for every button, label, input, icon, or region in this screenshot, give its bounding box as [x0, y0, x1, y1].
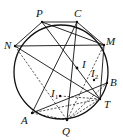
segment-A-T [32, 99, 100, 113]
label-N: N [3, 39, 12, 51]
segment-A-B [32, 83, 107, 113]
point-B-marker [106, 82, 108, 84]
point-I-marker [76, 67, 79, 70]
segment-C-Q [67, 22, 77, 120]
label-I1: I1 [50, 87, 59, 101]
point-labels: PCNMBTQAII1I2 [3, 7, 117, 137]
label-C: C [74, 7, 82, 19]
segment-C-M [77, 22, 104, 45]
label-B: B [110, 76, 117, 88]
label-M: M [105, 35, 116, 47]
dashed-segments [15, 45, 107, 120]
label-T: T [104, 98, 111, 110]
segment-Q-M [67, 45, 104, 120]
geometry-figure: PCNMBTQAII1I2 [0, 0, 123, 140]
point-T-marker [99, 98, 101, 100]
segment-I1-T [60, 96, 100, 99]
label-Q: Q [62, 125, 70, 137]
point-A-marker [31, 112, 33, 114]
segment-N-M [15, 45, 104, 46]
point-I1-marker [59, 95, 61, 97]
label-P: P [35, 7, 43, 19]
point-M-marker [103, 44, 105, 46]
point-C-marker [76, 21, 78, 23]
label-A: A [20, 114, 28, 126]
point-N-marker [14, 45, 16, 47]
point-Q-marker [66, 119, 68, 121]
point-P-marker [41, 21, 43, 23]
segment-P-N [15, 22, 42, 46]
label-I2: I2 [90, 67, 99, 81]
segment-P-M [42, 22, 104, 45]
label-I: I [81, 58, 87, 70]
